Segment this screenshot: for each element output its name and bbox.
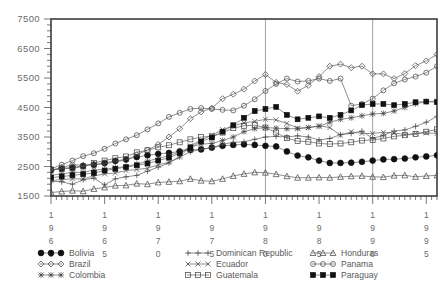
y-tick-label: 2500 bbox=[17, 161, 40, 172]
marker bbox=[423, 154, 429, 160]
x-tick-label-digit: 9 bbox=[317, 223, 322, 233]
marker bbox=[156, 158, 161, 163]
marker bbox=[70, 173, 75, 178]
marker bbox=[124, 165, 129, 170]
marker bbox=[134, 163, 139, 168]
marker bbox=[360, 103, 365, 108]
marker bbox=[317, 114, 322, 119]
marker bbox=[306, 115, 311, 120]
marker bbox=[241, 129, 247, 135]
x-tick-label-digit: 1 bbox=[156, 210, 161, 220]
marker bbox=[424, 99, 429, 104]
marker bbox=[327, 160, 333, 166]
x-tick-label-digit: 9 bbox=[370, 236, 375, 246]
x-tick-label-digit: 1 bbox=[370, 210, 375, 220]
marker bbox=[391, 156, 397, 162]
x-tick-label-digit: 1 bbox=[263, 210, 268, 220]
marker bbox=[370, 158, 376, 164]
legend-label: Colombia bbox=[69, 270, 106, 280]
marker bbox=[321, 273, 326, 278]
x-tick-label-digit: 5 bbox=[424, 249, 429, 259]
x-tick-label-digit: 9 bbox=[156, 223, 161, 233]
legend-label: Ecuador bbox=[216, 259, 248, 269]
marker bbox=[413, 154, 419, 160]
x-tick-label-digit: 1 bbox=[209, 210, 214, 220]
x-tick-label-digit: 9 bbox=[209, 223, 214, 233]
marker bbox=[392, 103, 397, 108]
x-tick-label-digit: 9 bbox=[370, 223, 375, 233]
x-tick-label-digit: 8 bbox=[317, 236, 322, 246]
marker bbox=[305, 125, 311, 131]
marker bbox=[348, 160, 354, 166]
marker bbox=[311, 273, 316, 278]
marker bbox=[391, 108, 397, 114]
marker bbox=[38, 250, 44, 256]
marker bbox=[380, 111, 386, 117]
marker bbox=[284, 149, 290, 155]
marker bbox=[220, 138, 226, 144]
marker bbox=[177, 151, 182, 156]
marker bbox=[370, 111, 376, 117]
marker bbox=[316, 158, 322, 164]
marker bbox=[327, 115, 332, 120]
marker bbox=[48, 272, 54, 278]
y-tick-label: 4500 bbox=[17, 102, 40, 113]
x-tick-label-digit: 5 bbox=[209, 249, 214, 259]
line-chart: 1500250035004500550065007500 19601965197… bbox=[0, 0, 447, 289]
y-tick-label: 3500 bbox=[17, 131, 40, 142]
marker bbox=[209, 135, 214, 140]
marker bbox=[295, 126, 301, 132]
y-tick-label: 6500 bbox=[17, 43, 40, 54]
marker bbox=[252, 109, 257, 114]
marker bbox=[58, 250, 64, 256]
marker bbox=[48, 250, 54, 256]
x-tick-label-digit: 9 bbox=[424, 236, 429, 246]
marker bbox=[252, 126, 258, 132]
legend-label: Brazil bbox=[69, 259, 91, 269]
marker bbox=[242, 115, 247, 120]
marker bbox=[230, 134, 236, 140]
marker bbox=[359, 159, 365, 165]
marker bbox=[38, 272, 44, 278]
marker bbox=[284, 126, 290, 132]
x-tick-label-digit: 7 bbox=[209, 236, 214, 246]
chart-container: 1500250035004500550065007500 19601965197… bbox=[0, 0, 447, 289]
marker bbox=[220, 129, 225, 134]
x-tick-label-digit: 7 bbox=[156, 236, 161, 246]
y-tick-label: 5500 bbox=[17, 72, 40, 83]
marker bbox=[284, 112, 289, 117]
marker bbox=[370, 102, 375, 107]
x-tick-label-digit: 9 bbox=[424, 223, 429, 233]
marker bbox=[263, 107, 268, 112]
marker bbox=[380, 157, 386, 163]
marker bbox=[305, 154, 311, 160]
marker bbox=[349, 108, 354, 113]
marker bbox=[102, 168, 107, 173]
marker bbox=[295, 153, 301, 159]
marker bbox=[273, 144, 279, 150]
marker bbox=[231, 123, 236, 128]
marker bbox=[145, 161, 150, 166]
marker bbox=[338, 112, 343, 117]
marker bbox=[167, 155, 172, 160]
x-tick-label-digit: 1 bbox=[317, 210, 322, 220]
x-tick-label-digit: 1 bbox=[102, 210, 107, 220]
marker bbox=[402, 156, 408, 162]
x-tick-label-digit: 0 bbox=[156, 249, 161, 259]
marker bbox=[113, 166, 118, 171]
x-tick-label-digit: 9 bbox=[263, 223, 268, 233]
legend-label: Dominican Republic bbox=[216, 248, 293, 258]
marker bbox=[316, 123, 322, 129]
marker bbox=[338, 160, 344, 166]
legend-label: Paraguay bbox=[341, 270, 378, 280]
marker bbox=[209, 141, 215, 147]
legend-label: Bolivia bbox=[69, 248, 95, 258]
x-tick-label-digit: 6 bbox=[49, 236, 54, 246]
marker bbox=[402, 102, 407, 107]
legend-label: Panama bbox=[341, 259, 373, 269]
marker bbox=[274, 105, 279, 110]
marker bbox=[331, 273, 336, 278]
y-tick-label: 7500 bbox=[17, 13, 40, 24]
y-tick-label: 1500 bbox=[17, 190, 40, 201]
x-tick-label-digit: 6 bbox=[102, 236, 107, 246]
